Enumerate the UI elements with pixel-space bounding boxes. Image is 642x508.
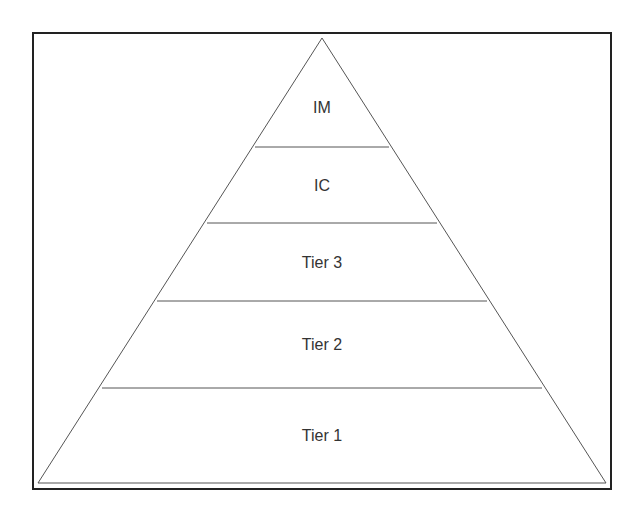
pyramid-diagram: IM IC Tier 3 Tier 2 Tier 1 xyxy=(0,0,642,508)
level-label-ic: IC xyxy=(314,177,330,194)
level-label-tier-2: Tier 2 xyxy=(302,336,342,353)
level-label-tier-3: Tier 3 xyxy=(302,254,342,271)
level-label-im: IM xyxy=(313,99,331,116)
level-label-tier-1: Tier 1 xyxy=(302,427,342,444)
